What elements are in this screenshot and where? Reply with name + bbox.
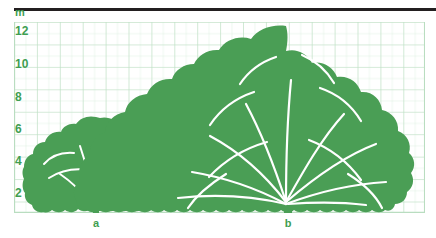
y-tick-label-8: 8: [15, 91, 22, 103]
y-tick-label-12: 12: [15, 25, 28, 37]
plot-area: [14, 22, 425, 213]
trees-svg: [14, 22, 425, 213]
x-tick-label-a: a: [86, 218, 106, 229]
y-tick-label-4: 4: [15, 155, 22, 167]
tree-b: [74, 26, 414, 213]
tree-height-comparison-figure: m: [0, 0, 436, 238]
y-tick-label-2: 2: [15, 187, 22, 199]
top-rule-divider: [14, 8, 436, 11]
x-tick-label-b: b: [278, 218, 298, 229]
y-tick-label-6: 6: [15, 123, 22, 135]
y-tick-label-10: 10: [15, 58, 28, 70]
y-axis-unit-label: m: [15, 7, 25, 18]
